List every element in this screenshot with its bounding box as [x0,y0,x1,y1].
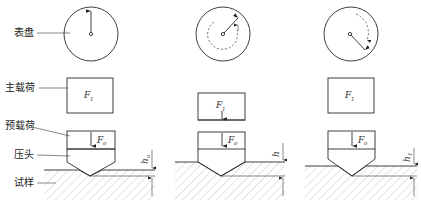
svg-text:1: 1 [407,153,413,157]
specimen [175,162,285,200]
label-preload: 预载荷 [5,120,35,131]
stage-3-unloaded: F 1 F o h 1 [305,7,417,200]
svg-text:o: o [103,140,107,146]
svg-text:1: 1 [351,96,355,102]
indenter-assembly: F o [67,131,115,176]
specimen [305,166,417,200]
main-load-block: F 1 [67,78,113,113]
stage-1-preload: F 1 F o h o [44,7,155,200]
left-labels: 表盘 主载荷 预载荷 压头 试样 [5,26,70,188]
dial-icon [324,7,378,61]
indenter-assembly-loaded: F 1 F o [198,93,245,176]
svg-text:h: h [402,156,412,162]
svg-text:h: h [271,151,281,157]
rockwell-hardness-diagram: 表盘 主载荷 预载荷 压头 试样 F 1 F o [0,0,421,200]
svg-text:1: 1 [90,96,94,102]
dial-icon [196,7,250,61]
svg-text:h: h [140,158,150,164]
leader-indenter [37,155,70,156]
svg-text:o: o [234,140,238,146]
main-load-block: F 1 [328,78,374,113]
label-specimen: 试样 [14,176,34,188]
label-indenter: 压头 [14,149,34,160]
dial-icon [64,7,118,61]
specimen [44,170,155,200]
label-main-load: 主载荷 [5,82,35,93]
stage-2-main-load: F 1 F o h [175,7,285,200]
svg-text:o: o [145,154,151,158]
svg-text:o: o [364,140,368,146]
svg-text:1: 1 [222,106,226,112]
leader-preload [32,127,70,136]
label-dial: 表盘 [14,26,34,38]
